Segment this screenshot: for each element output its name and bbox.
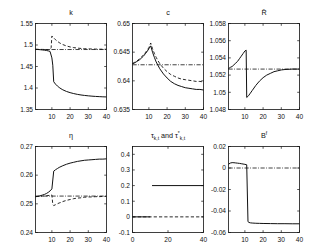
x-tick-label: 30 — [278, 236, 286, 243]
x-tick-label: 0 — [130, 236, 134, 243]
chart-Bf: 10203040-0.06-0.04-0.0200.02Bf — [200, 127, 304, 247]
panel-c: 102030400.6350.640.6450.65c — [104, 4, 208, 124]
y-tick-label: 0.645 — [113, 48, 130, 55]
y-tick-label: 0.25 — [20, 200, 33, 207]
figure: 102030401.351.41.451.51.55k 102030400.63… — [0, 0, 320, 250]
axes-box — [132, 147, 203, 233]
chart-eta: 102030400.240.250.260.27η — [7, 127, 111, 247]
panel-tau: 02040-0.100.10.20.30.4τk,t and τ*k,t — [104, 127, 208, 247]
axes-box — [229, 147, 300, 233]
y-tick-label: 0.4 — [120, 151, 129, 158]
y-tick-label: 1.048 — [209, 106, 226, 113]
chart-k: 102030401.351.41.451.51.55k — [7, 4, 111, 124]
R-solid-series — [229, 50, 300, 97]
chart-tau: 02040-0.100.10.20.30.4τk,t and τ*k,t — [104, 127, 208, 247]
chart-title-Bf: Bf — [261, 130, 268, 140]
Bf-solid-series — [229, 163, 300, 224]
y-tick-label: -0.02 — [211, 186, 226, 193]
tau-solid-series — [132, 186, 203, 217]
x-tick-label: 20 — [259, 113, 267, 120]
panel-Rbar: 102030401.0481.051.0521.0541.0561.058R̄ — [200, 4, 304, 124]
x-tick-label: 30 — [278, 113, 286, 120]
x-tick-label: 40 — [296, 113, 304, 120]
x-tick-label: 20 — [259, 236, 267, 243]
k-dashed-series — [36, 36, 107, 50]
x-tick-label: 30 — [181, 113, 189, 120]
y-tick-label: 0.635 — [113, 106, 130, 113]
x-tick-label: 10 — [48, 236, 56, 243]
c-dashed-series — [132, 43, 203, 82]
y-tick-label: 1.052 — [209, 71, 226, 78]
y-tick-label: -0.04 — [211, 207, 226, 214]
y-tick-label: 0 — [222, 164, 226, 171]
y-tick-label: 1.05 — [213, 89, 226, 96]
y-tick-label: -0.06 — [211, 229, 226, 236]
y-tick-label: 1.5 — [24, 41, 33, 48]
y-tick-label: 0.2 — [120, 182, 129, 189]
y-tick-label: 1.55 — [20, 20, 33, 27]
y-tick-label: 0.1 — [120, 198, 129, 205]
x-tick-label: 40 — [296, 236, 304, 243]
y-tick-label: -0.1 — [118, 229, 130, 236]
y-tick-label: 0.24 — [20, 229, 33, 236]
chart-title-c: c — [166, 8, 170, 17]
k-solid-series — [36, 49, 107, 97]
chart-title-R: R̄ — [261, 8, 266, 17]
x-tick-label: 10 — [145, 113, 153, 120]
y-tick-label: 0.27 — [20, 143, 33, 150]
x-tick-label: 10 — [241, 236, 249, 243]
chart-title-k: k — [69, 8, 73, 17]
y-tick-label: 1.058 — [209, 20, 226, 27]
x-tick-label: 20 — [66, 236, 74, 243]
x-tick-label: 30 — [85, 113, 93, 120]
x-tick-label: 30 — [85, 236, 93, 243]
panel-k: 102030401.351.41.451.51.55k — [7, 4, 111, 124]
axes-box — [229, 24, 300, 110]
y-tick-label: 0 — [126, 213, 130, 220]
y-tick-label: 1.056 — [209, 37, 226, 44]
chart-title-eta: η — [69, 131, 73, 140]
panel-Bf: 10203040-0.06-0.04-0.0200.02Bf — [200, 127, 304, 247]
y-tick-label: 1.054 — [209, 54, 226, 61]
eta-solid-series — [36, 159, 107, 197]
c-solid-series — [132, 46, 203, 90]
chart-title-tau: τk,t and τ*k,t — [150, 130, 185, 140]
axes-box — [132, 24, 203, 110]
y-tick-label: 0.65 — [117, 20, 130, 27]
x-tick-label: 10 — [241, 113, 249, 120]
y-tick-label: 0.3 — [120, 166, 129, 173]
y-tick-label: 0.26 — [20, 171, 33, 178]
y-tick-label: 1.4 — [24, 84, 33, 91]
y-tick-label: 0.64 — [117, 77, 130, 84]
x-tick-label: 20 — [66, 113, 74, 120]
y-tick-label: 0.02 — [213, 143, 226, 150]
y-tick-label: 1.35 — [20, 106, 33, 113]
eta-dashed-series — [36, 195, 107, 206]
x-tick-label: 10 — [48, 113, 56, 120]
chart-c: 102030400.6350.640.6450.65c — [104, 4, 208, 124]
x-tick-label: 20 — [163, 113, 171, 120]
y-tick-label: 1.45 — [20, 63, 33, 70]
panel-eta: 102030400.240.250.260.27η — [7, 127, 111, 247]
chart-R: 102030401.0481.051.0521.0541.0561.058R̄ — [200, 4, 304, 124]
x-tick-label: 20 — [164, 236, 172, 243]
